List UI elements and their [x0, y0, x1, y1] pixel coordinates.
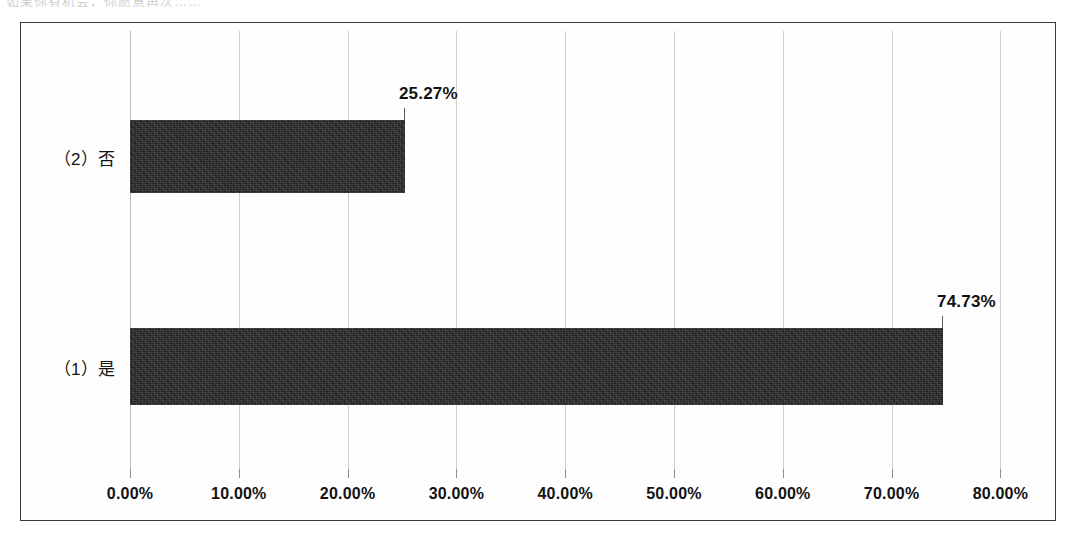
x-axis-tick-label: 30.00% — [429, 485, 484, 503]
clipped-caption-text: 如果你有机会，你愿意再次…… — [6, 0, 306, 7]
bar-1[interactable] — [130, 328, 943, 405]
x-axis-tick-label: 20.00% — [320, 485, 375, 503]
data-label-leader-tick — [942, 316, 943, 328]
x-axis-tick-label: 40.00% — [537, 485, 592, 503]
chart-frame: 0.00%10.00%20.00%30.00%40.00%50.00%60.00… — [20, 22, 1056, 521]
category-label-1: （1）是 — [21, 355, 116, 380]
x-tick-mark — [130, 469, 131, 478]
plot-area: 0.00%10.00%20.00%30.00%40.00%50.00%60.00… — [21, 23, 1055, 520]
x-axis-tick-label: 10.00% — [211, 485, 266, 503]
x-tick-mark — [892, 469, 893, 478]
data-label-1: 74.73% — [937, 292, 996, 312]
x-axis-tick-label: 60.00% — [755, 485, 810, 503]
x-tick-mark — [783, 469, 784, 478]
x-tick-mark — [565, 469, 566, 478]
bar-2[interactable] — [130, 120, 405, 193]
data-label-2: 25.27% — [399, 84, 458, 104]
x-axis-tick-label: 80.00% — [973, 485, 1028, 503]
x-axis-tick-label: 70.00% — [864, 485, 919, 503]
x-tick-mark — [239, 469, 240, 478]
data-label-leader-tick — [404, 108, 405, 120]
category-label-2: （2）否 — [21, 145, 116, 170]
x-tick-mark — [674, 469, 675, 478]
gridline-80.00% — [1000, 31, 1001, 469]
x-axis-tick-label: 50.00% — [646, 485, 701, 503]
x-tick-mark — [348, 469, 349, 478]
x-axis-tick-label: 0.00% — [107, 485, 153, 503]
x-tick-mark — [456, 469, 457, 478]
x-tick-mark — [1000, 469, 1001, 478]
